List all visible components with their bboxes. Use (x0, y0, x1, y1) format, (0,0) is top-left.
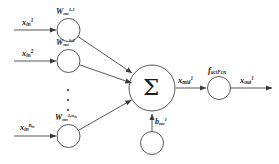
arrow-weight-n-to-sum (79, 100, 132, 130)
bias-label: bnn1 (155, 118, 167, 126)
activation-label: factFcn (208, 66, 226, 75)
vertical-ellipsis (67, 89, 69, 111)
ellipsis-dot (67, 99, 69, 101)
neuron-diagram: xin1 xin2 xinnin Wnn1,1 Wnn1,2 Wnn1,nin … (0, 0, 279, 164)
weight-label-1: Wnn1,1 (56, 8, 75, 16)
weight-label-2: Wnn1,2 (56, 39, 75, 47)
mid-signal-label: xmid1 (178, 76, 193, 85)
weight-label-n: Wnn1,nin (55, 114, 77, 122)
weight-node-2 (57, 50, 80, 73)
diagram-graphics (0, 0, 279, 164)
ellipsis-dot (67, 109, 69, 111)
input-label-n: xinnin (20, 123, 34, 132)
output-label: xout1 (240, 76, 254, 85)
ellipsis-dot (67, 89, 69, 91)
weight-node-n (57, 125, 80, 148)
input-label-1: xin1 (22, 18, 33, 27)
activation-circle (208, 77, 231, 100)
input-label-2: xin2 (22, 49, 33, 58)
summation-symbol: Σ (143, 76, 159, 99)
bias-circle (141, 132, 164, 155)
